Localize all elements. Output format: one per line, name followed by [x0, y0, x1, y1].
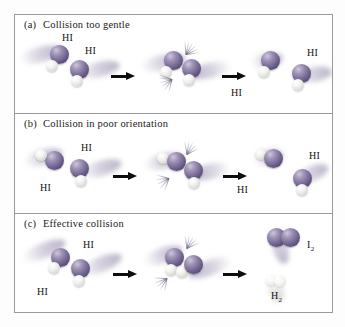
label-hi-2: HI	[83, 239, 94, 250]
label-hi-product-2: HI	[307, 47, 318, 58]
label-hi-1: HI	[62, 32, 73, 43]
collision-figure: (a)Collision too gentle HI HI	[14, 14, 333, 313]
arrow-head	[128, 172, 137, 180]
arrow-head	[238, 270, 247, 278]
iodine-atom	[281, 228, 300, 247]
hydrogen-atom	[274, 275, 286, 287]
label-hi-product-1: HI	[231, 87, 242, 98]
hydrogen-atom	[75, 175, 87, 187]
hydrogen-atom	[183, 74, 195, 86]
label-hi-2: HI	[81, 142, 92, 153]
panel-effective-collision: (c)Effective collision HI HI	[15, 213, 332, 312]
arrow-head	[238, 172, 247, 180]
label-hi-1: HI	[37, 286, 48, 297]
label-h2-product: H2	[271, 290, 282, 304]
hydrogen-atom	[258, 66, 270, 78]
arrow-head	[126, 72, 135, 80]
panel-b-stage: HI HI	[15, 114, 332, 213]
iodine-atom	[45, 151, 64, 170]
panel-c-stage: HI HI	[15, 214, 332, 312]
hydrogen-atom	[296, 184, 308, 196]
hydrogen-atom	[188, 177, 200, 189]
hydrogen-atom	[48, 262, 60, 274]
label-hi-product-1: HI	[237, 184, 248, 195]
arrow-to-collision	[111, 72, 136, 81]
arrow-to-products	[222, 72, 247, 81]
iodine-atom	[264, 149, 283, 168]
hydrogen-atom	[73, 275, 85, 287]
arrow-to-collision	[113, 270, 138, 279]
label-hi-2: HI	[85, 45, 96, 56]
label-hi-1: HI	[40, 182, 51, 193]
arrow-head	[237, 72, 246, 80]
iodine-atom	[184, 255, 203, 274]
panel-collision-poor-orientation: (b)Collision in poor orientation HI HI	[15, 113, 332, 213]
label-i2-product: I2	[307, 239, 314, 253]
label-hi-product-2: HI	[309, 150, 320, 161]
arrow-to-products	[223, 172, 248, 181]
hydrogen-atom	[46, 60, 58, 72]
hydrogen-atom	[71, 75, 83, 87]
hydrogen-atom	[292, 79, 304, 91]
panel-collision-too-gentle: (a)Collision too gentle HI HI	[15, 15, 332, 113]
arrow-to-products	[223, 270, 248, 279]
panel-a-stage: HI HI	[15, 15, 332, 113]
arrow-head	[128, 270, 137, 278]
arrow-to-collision	[113, 172, 138, 181]
hydrogen-atom	[35, 149, 47, 161]
